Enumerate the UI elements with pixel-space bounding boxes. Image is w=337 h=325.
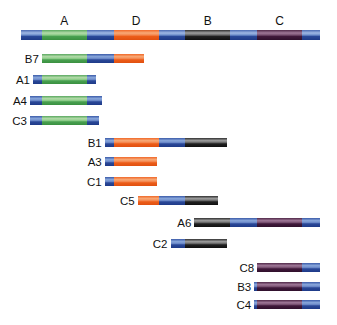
clone-segment-spacer: [105, 177, 114, 186]
clone-segment-region-d: [114, 138, 159, 147]
clone-segment-region-d: [114, 157, 157, 166]
clone-segment-spacer: [159, 138, 186, 147]
clone-segment-spacer: [302, 218, 320, 227]
clone-segment-region-b: [194, 218, 230, 227]
clone-segment-spacer: [30, 116, 42, 125]
clone-label: B3: [221, 281, 251, 293]
clone-segment-region-a: [42, 96, 87, 105]
clone-label: B7: [9, 53, 39, 65]
clone-segment-spacer: [87, 75, 96, 84]
clone-segment-spacer: [87, 96, 102, 105]
clone-segment-region-b: [185, 196, 218, 205]
clone-segment-spacer: [30, 96, 42, 105]
clone-label: C2: [138, 238, 168, 250]
main-map-segment-spacer: [87, 30, 114, 40]
clone-segment-region-c: [257, 282, 302, 291]
clone-label: C8: [224, 262, 254, 274]
clone-segment-spacer: [87, 54, 114, 63]
main-map-segment-region-c: [257, 30, 302, 40]
clone-segment-region-d: [114, 54, 144, 63]
clone-segment-region-d: [114, 177, 157, 186]
clone-segment-spacer: [302, 263, 320, 272]
main-map-segment-region-b: [185, 30, 230, 40]
clone-label: C5: [105, 195, 135, 207]
main-map-segment-region-d: [114, 30, 159, 40]
region-label-d: D: [132, 14, 141, 28]
clone-label: A6: [161, 217, 191, 229]
clone-map-diagram: ADBC B7A1A4C3B1A3C1C5A6C2C8B3C4: [0, 0, 337, 325]
clone-label: A4: [0, 95, 27, 107]
clone-label: A3: [72, 156, 102, 168]
clone-label: A1: [0, 74, 30, 86]
clone-segment-region-b: [185, 138, 227, 147]
clone-label: C4: [221, 299, 251, 311]
clone-segment-spacer: [302, 300, 320, 309]
clone-segment-spacer: [230, 218, 257, 227]
clone-label: C1: [72, 176, 102, 188]
clone-segment-region-b: [185, 239, 227, 248]
clone-label: B1: [72, 137, 102, 149]
clone-segment-region-c: [257, 263, 302, 272]
clone-segment-region-a: [42, 75, 87, 84]
clone-segment-spacer: [171, 239, 186, 248]
main-map-segment-spacer: [21, 30, 42, 40]
main-map-segment-region-a: [42, 30, 87, 40]
clone-segment-region-a: [42, 116, 87, 125]
clone-segment-region-d: [138, 196, 159, 205]
main-map-segment-spacer: [230, 30, 257, 40]
clone-label: C3: [0, 115, 27, 127]
clone-segment-spacer: [105, 157, 114, 166]
clone-segment-spacer: [159, 196, 186, 205]
region-label-c: C: [275, 14, 284, 28]
clone-segment-spacer: [33, 75, 42, 84]
clone-segment-region-a: [42, 54, 87, 63]
clone-segment-spacer: [105, 138, 114, 147]
clone-segment-spacer: [302, 282, 320, 291]
clone-segment-region-c: [257, 218, 302, 227]
clone-segment-region-c: [257, 300, 302, 309]
main-map-segment-spacer: [159, 30, 186, 40]
region-label-a: A: [60, 14, 68, 28]
clone-segment-spacer: [87, 116, 99, 125]
main-map-segment-spacer: [302, 30, 320, 40]
region-label-b: B: [204, 14, 212, 28]
